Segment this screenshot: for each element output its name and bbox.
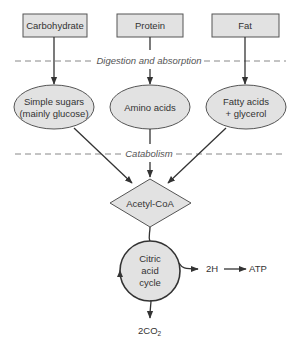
svg-text:Protein: Protein [135,20,165,31]
product-fatty-acids: Fatty acids + glycerol [206,85,286,129]
arrow-fatty-to-acetyl [168,128,226,183]
svg-text:Simple sugars: Simple sugars [24,96,84,107]
svg-text:Acetyl-CoA: Acetyl-CoA [126,198,174,209]
svg-text:Carbohydrate: Carbohydrate [26,20,84,31]
arrow-sugars-to-acetyl [74,128,132,183]
svg-text:Amino acids: Amino acids [124,102,176,113]
svg-text:cycle: cycle [139,277,161,288]
output-co2: 2CO2 [138,325,162,337]
svg-text:Citric: Citric [139,253,161,264]
product-amino-acids: Amino acids [110,85,190,129]
svg-text:+ glycerol: + glycerol [226,108,267,119]
source-fat: Fat [212,14,279,37]
svg-text:(mainly glucose): (mainly glucose) [19,108,88,119]
output-2h: 2H [206,263,218,274]
arrow-cycle-to-co2 [150,300,151,318]
metabolism-diagram: Carbohydrate Protein Fat Digestion and a… [0,0,300,345]
source-carbohydrate: Carbohydrate [23,14,87,37]
svg-text:acid: acid [141,265,158,276]
product-simple-sugars: Simple sugars (mainly glucose) [14,85,94,129]
citric-acid-cycle: Citric acid cycle [117,241,180,301]
svg-text:Digestion and absorption: Digestion and absorption [96,55,201,66]
output-atp: ATP [249,263,267,274]
hub-acetyl-coa: Acetyl-CoA [110,179,191,227]
svg-text:Catabolism: Catabolism [125,148,173,159]
connector-acetyl-to-cycle [149,227,150,242]
arrow-cycle-to-2h [179,263,198,269]
source-protein: Protein [117,14,183,37]
svg-text:Fat: Fat [238,20,252,31]
svg-text:Fatty acids: Fatty acids [223,96,269,107]
catabolism-divider: Catabolism [15,148,286,159]
